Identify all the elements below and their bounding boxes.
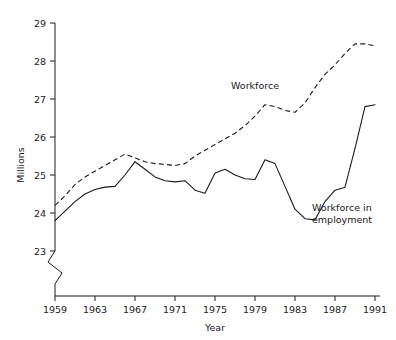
series-label-workforce: Workforce	[231, 80, 279, 91]
series-line-workforce	[55, 44, 375, 206]
x-tick-label-1983: 1983	[283, 304, 307, 315]
chart-container: 29 28 27 26 25 24 23 Millions 1959 1963	[0, 0, 396, 340]
y-axis	[48, 23, 62, 296]
x-axis-title: Year	[204, 322, 225, 333]
y-tick-label-25: 25	[34, 170, 46, 181]
x-tick-label-1991: 1991	[363, 304, 387, 315]
x-tick-label-1963: 1963	[83, 304, 107, 315]
x-tick-label-1959: 1959	[43, 304, 67, 315]
y-tick-label-26: 26	[34, 132, 46, 143]
x-tick-label-1987: 1987	[323, 304, 347, 315]
y-axis-ticks	[50, 23, 55, 251]
y-tick-label-29: 29	[34, 18, 46, 29]
y-axis-tick-labels: 29 28 27 26 25 24 23	[34, 18, 46, 257]
y-axis-title: Millions	[15, 147, 26, 183]
y-tick-label-24: 24	[34, 208, 46, 219]
x-tick-label-1975: 1975	[203, 304, 227, 315]
line-chart: 29 28 27 26 25 24 23 Millions 1959 1963	[0, 0, 396, 340]
x-axis-tick-labels: 1959 1963 1967 1971 1975 1979 1983 1987 …	[43, 304, 387, 315]
series-label-workforce-in-employment-line1: Workforce in	[312, 202, 372, 213]
x-tick-label-1979: 1979	[243, 304, 267, 315]
y-tick-label-23: 23	[34, 246, 46, 257]
x-axis-ticks	[55, 296, 375, 301]
y-axis-break-zigzag	[48, 251, 62, 296]
series-label-workforce-in-employment-line2: employment	[312, 214, 372, 225]
y-tick-label-28: 28	[34, 56, 46, 67]
x-tick-label-1967: 1967	[123, 304, 147, 315]
y-tick-label-27: 27	[34, 94, 46, 105]
x-tick-label-1971: 1971	[163, 304, 187, 315]
